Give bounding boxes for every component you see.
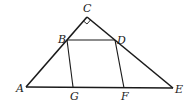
geometry-diagram: C B D A G F E xyxy=(0,0,190,103)
label-E: E xyxy=(174,83,183,96)
segment-AC xyxy=(26,17,87,87)
label-F: F xyxy=(120,90,129,103)
segment-AE xyxy=(26,87,173,88)
label-A: A xyxy=(15,82,24,95)
label-C: C xyxy=(83,2,92,15)
label-G: G xyxy=(70,90,79,103)
diagram-svg: C B D A G F E xyxy=(0,0,190,103)
segment-BG xyxy=(67,40,73,87)
label-D: D xyxy=(116,34,126,47)
label-B: B xyxy=(57,33,66,46)
segment-CE xyxy=(87,17,173,88)
